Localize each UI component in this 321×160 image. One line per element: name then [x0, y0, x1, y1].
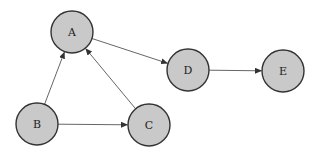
edge-b-to-a: [45, 52, 65, 104]
directed-graph: ABCDE: [0, 0, 321, 160]
edge-c-to-a: [86, 49, 136, 109]
node-label: B: [33, 118, 41, 131]
edge-d-to-e: [209, 70, 262, 71]
edge-a-to-d: [92, 39, 168, 64]
node-label: D: [184, 64, 193, 77]
node-a: A: [51, 11, 93, 53]
node-label: E: [279, 65, 287, 78]
node-b: B: [16, 103, 58, 145]
node-label: A: [67, 26, 77, 39]
node-e: E: [262, 50, 304, 92]
node-d: D: [167, 49, 209, 91]
node-label: C: [145, 119, 153, 132]
node-c: C: [128, 104, 170, 146]
nodes-layer: ABCDE: [16, 11, 304, 146]
edge-b-to-c: [58, 124, 128, 125]
